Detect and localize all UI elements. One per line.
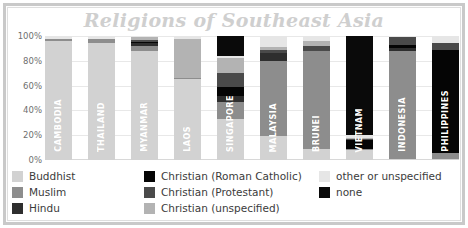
bar-stack xyxy=(346,36,373,160)
bar-segment-buddhist xyxy=(432,159,459,160)
legend-swatch-christian_unspecified xyxy=(144,203,155,214)
legend-swatch-protestant xyxy=(144,187,155,198)
y-axis-tick-label: 0% xyxy=(29,155,43,165)
y-axis: 0%20%40%60%80%100% xyxy=(9,36,45,160)
bar-segment-roman_catholic xyxy=(432,50,459,153)
bar-stack xyxy=(217,36,244,160)
bar-segment-buddhist xyxy=(260,136,287,160)
bar-segment-other_or_unspecified xyxy=(260,36,287,47)
y-axis-tick-label: 20% xyxy=(23,130,42,140)
bar-segment-none xyxy=(217,36,244,56)
bar-segment-protestant xyxy=(389,37,416,44)
bar-segment-christian_unspecified xyxy=(174,39,201,79)
legend-column-3: other or unspecifiednone xyxy=(319,168,456,218)
y-axis-tick-label: 80% xyxy=(23,56,42,66)
page-title: Religions of Southeast Asia xyxy=(0,9,468,31)
bar-stack xyxy=(260,36,287,160)
bar-stack xyxy=(45,36,72,160)
bar-stack xyxy=(88,36,115,160)
bar-segment-hindu xyxy=(260,53,287,60)
bar-segment-buddhist xyxy=(389,159,416,160)
bar-stack xyxy=(174,36,201,160)
legend-swatch-hindu xyxy=(12,203,23,214)
bar-laos[interactable]: LAOS xyxy=(174,36,201,160)
bar-segment-muslim xyxy=(260,61,287,137)
bar-segment-protestant xyxy=(217,73,244,87)
bar-brunei[interactable]: BRUNEI xyxy=(303,36,330,160)
bar-segment-buddhist xyxy=(174,79,201,160)
legend-swatch-buddhist xyxy=(12,171,23,182)
bar-philippines[interactable]: PHILIPPINES xyxy=(432,36,459,160)
bar-stack xyxy=(389,36,416,160)
legend-label: Hindu xyxy=(29,202,60,214)
bar-singapore[interactable]: SINGAPORE xyxy=(217,36,244,160)
bar-segment-buddhist xyxy=(131,51,158,160)
bar-vietnam[interactable]: VIETNAM xyxy=(346,36,373,160)
legend-label: Muslim xyxy=(29,186,66,198)
legend-swatch-none xyxy=(319,187,330,198)
plot-area: 0%20%40%60%80%100% CAMBODIATHAILANDMYANM… xyxy=(9,36,459,166)
bar-indonesia[interactable]: INDONESIA xyxy=(389,36,416,160)
legend-item-christian_unspecified[interactable]: Christian (unspecified) xyxy=(144,200,319,216)
bar-segment-other_or_unspecified xyxy=(432,36,459,43)
y-axis-tick-label: 100% xyxy=(18,31,42,41)
bar-thailand[interactable]: THAILAND xyxy=(88,36,115,160)
legend-swatch-muslim xyxy=(12,187,23,198)
legend-item-none[interactable]: none xyxy=(319,184,456,200)
legend-swatch-roman_catholic xyxy=(144,171,155,182)
bar-segment-muslim xyxy=(389,51,416,159)
bar-malaysia[interactable]: MALAYSIA xyxy=(260,36,287,160)
y-axis-tick-label: 60% xyxy=(23,81,42,91)
bar-segment-none xyxy=(346,36,373,135)
bar-segment-christian_unspecified xyxy=(217,58,244,73)
bar-segment-muslim xyxy=(303,51,330,149)
legend-item-other_or_unspecified[interactable]: other or unspecified xyxy=(319,168,456,184)
bar-segment-buddhist xyxy=(45,41,72,160)
legend-item-hindu[interactable]: Hindu xyxy=(12,200,144,216)
chart-page: Religions of Southeast Asia 0%20%40%60%8… xyxy=(0,0,468,228)
bar-segment-roman_catholic xyxy=(346,140,373,149)
chart-legend: BuddhistMuslimHinduChristian (Roman Cath… xyxy=(12,168,456,218)
bar-cambodia[interactable]: CAMBODIA xyxy=(45,36,72,160)
legend-label: Christian (Roman Catholic) xyxy=(161,170,302,182)
bar-stack xyxy=(432,36,459,160)
legend-label: none xyxy=(336,186,362,198)
legend-label: other or unspecified xyxy=(336,170,442,182)
legend-item-protestant[interactable]: Christian (Protestant) xyxy=(144,184,319,200)
legend-item-muslim[interactable]: Muslim xyxy=(12,184,144,200)
bar-segment-buddhist xyxy=(88,43,115,160)
legend-item-roman_catholic[interactable]: Christian (Roman Catholic) xyxy=(144,168,319,184)
legend-label: Buddhist xyxy=(29,170,75,182)
bar-group: CAMBODIATHAILANDMYANMARLAOSSINGAPOREMALA… xyxy=(45,36,459,160)
bar-myanmar[interactable]: MYANMAR xyxy=(131,36,158,160)
bar-segment-muslim xyxy=(217,102,244,119)
bar-segment-roman_catholic xyxy=(217,87,244,96)
legend-column-1: BuddhistMuslimHindu xyxy=(12,168,144,218)
legend-item-buddhist[interactable]: Buddhist xyxy=(12,168,144,184)
y-axis-tick-label: 40% xyxy=(23,105,42,115)
bar-segment-buddhist xyxy=(303,149,330,160)
legend-label: Christian (unspecified) xyxy=(161,202,280,214)
bar-stack xyxy=(303,36,330,160)
bar-stack xyxy=(131,36,158,160)
legend-label: Christian (Protestant) xyxy=(161,186,273,198)
legend-column-2: Christian (Roman Catholic)Christian (Pro… xyxy=(144,168,319,218)
bar-segment-buddhist xyxy=(346,150,373,160)
legend-swatch-other_or_unspecified xyxy=(319,171,330,182)
bar-segment-buddhist xyxy=(217,119,244,160)
